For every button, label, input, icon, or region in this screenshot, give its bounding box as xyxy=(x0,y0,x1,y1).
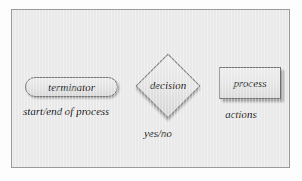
caption-decision: yes/no xyxy=(144,128,172,139)
shape-decision[interactable]: decision xyxy=(136,53,200,119)
shape-terminator[interactable]: terminator xyxy=(25,77,118,97)
caption-terminator: start/end of process xyxy=(23,106,109,117)
shape-process[interactable]: process xyxy=(219,67,281,99)
shape-terminator-label: terminator xyxy=(48,82,95,93)
caption-process: actions xyxy=(225,109,257,120)
diagram-panel: terminator start/end of process decision… xyxy=(11,9,290,168)
shape-decision-label: decision xyxy=(136,80,200,91)
shape-process-label: process xyxy=(233,78,266,89)
figure-canvas: terminator start/end of process decision… xyxy=(0,0,302,181)
